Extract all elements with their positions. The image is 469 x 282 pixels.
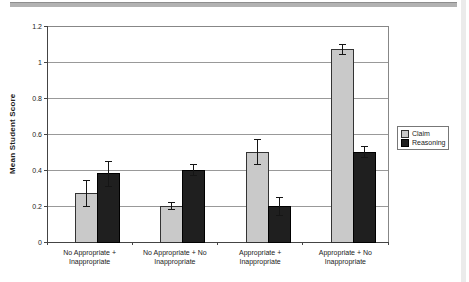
- legend-label-reasoning: Reasoning: [412, 138, 445, 147]
- legend-item-reasoning: Reasoning: [401, 138, 445, 147]
- y-axis-title: Mean Student Score: [6, 26, 18, 242]
- x-category-label: No Appropriate + NoInappropriate: [143, 249, 207, 266]
- reasoning-series-swatch-icon: [401, 139, 409, 147]
- bar-reasoning: [183, 170, 205, 242]
- y-tick-label: 0.8: [32, 95, 42, 102]
- y-tick-label: 0.6: [32, 131, 42, 138]
- bar-claim: [161, 206, 183, 242]
- legend: Claim Reasoning: [397, 126, 449, 150]
- x-category-label: No Appropriate +Inappropriate: [63, 249, 116, 266]
- legend-item-claim: Claim: [401, 129, 445, 138]
- bar-reasoning: [353, 152, 375, 242]
- claim-series-swatch-icon: [401, 130, 409, 138]
- y-tick-label: 1.2: [32, 23, 42, 30]
- bar-chart: 00.20.40.60.811.2No Appropriate +Inappro…: [0, 0, 469, 282]
- y-tick-label: 0.4: [32, 167, 42, 174]
- x-category-label: Appropriate + NoInappropriate: [319, 249, 372, 266]
- page: 00.20.40.60.811.2No Appropriate +Inappro…: [0, 0, 469, 282]
- y-tick-label: 1: [38, 59, 42, 66]
- y-tick-label: 0: [38, 239, 42, 246]
- bar-claim: [331, 49, 353, 242]
- y-tick-label: 0.2: [32, 203, 42, 210]
- legend-label-claim: Claim: [412, 129, 430, 138]
- x-category-label: Appropriate +Inappropriate: [239, 249, 281, 266]
- bar-claim: [246, 152, 268, 242]
